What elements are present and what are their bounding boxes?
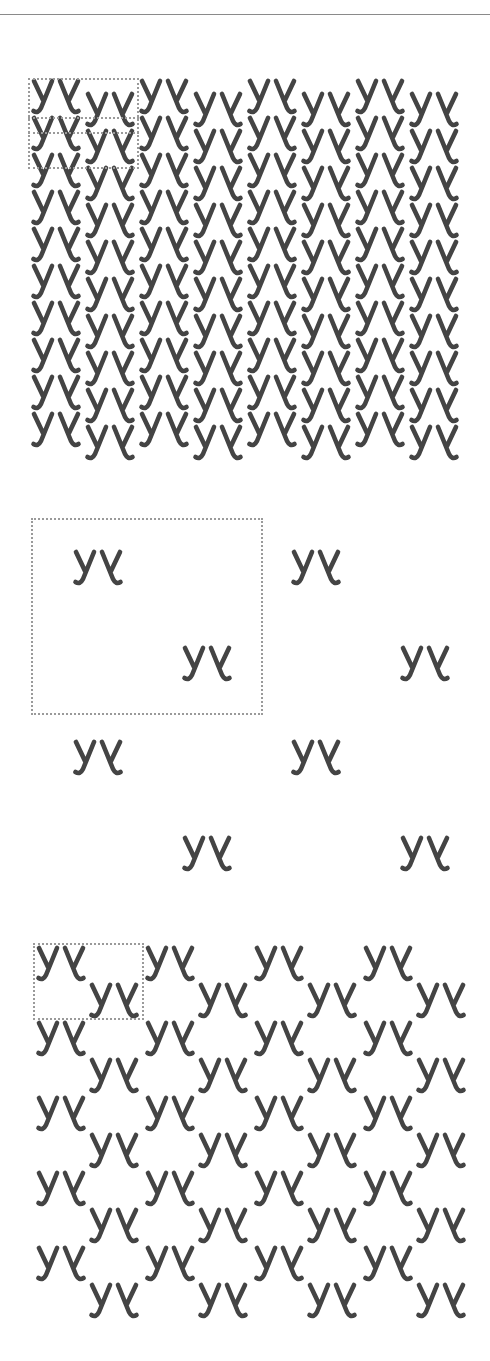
yy-motif-icon [300, 387, 352, 425]
yy-motif-icon [408, 128, 460, 166]
yy-motif-icon [246, 78, 298, 116]
yy-motif-icon [192, 128, 244, 166]
yy-motif-icon [362, 945, 414, 983]
yy-motif-icon [30, 300, 82, 338]
yy-motif-icon [362, 1170, 414, 1208]
yy-motif-icon [253, 945, 305, 983]
yy-motif-icon [138, 411, 190, 449]
yy-motif-icon [306, 1207, 358, 1245]
yy-motif-icon [144, 945, 196, 983]
yy-motif-icon [30, 189, 82, 227]
yy-motif-icon [138, 263, 190, 301]
yy-motif-icon [84, 165, 136, 203]
yy-motif-icon [88, 1132, 140, 1170]
yy-motif-icon [300, 350, 352, 388]
yy-motif-icon [246, 411, 298, 449]
yy-motif-icon [84, 128, 136, 166]
yy-motif-icon [197, 1207, 249, 1245]
yy-motif-icon [408, 350, 460, 388]
yy-motif-icon [192, 350, 244, 388]
yy-motif-icon [84, 387, 136, 425]
yy-motif-icon [144, 1020, 196, 1058]
yy-motif-icon [192, 239, 244, 277]
yy-motif-icon [30, 337, 82, 375]
yy-motif-icon [192, 424, 244, 462]
yy-motif-icon [408, 202, 460, 240]
yy-motif-icon [84, 91, 136, 129]
yy-motif-icon [30, 374, 82, 412]
yy-motif-icon [197, 982, 249, 1020]
yy-motif-icon [300, 165, 352, 203]
yy-motif-icon [415, 1207, 467, 1245]
yy-motif-icon [144, 1095, 196, 1133]
yy-motif-icon [35, 1020, 87, 1058]
yy-motif-icon [138, 78, 190, 116]
yy-motif-icon [84, 350, 136, 388]
yy-motif-icon [84, 202, 136, 240]
yy-motif-icon [300, 424, 352, 462]
yy-motif-icon [192, 313, 244, 351]
yy-motif-icon [300, 239, 352, 277]
yy-motif-icon [306, 1132, 358, 1170]
yy-motif-icon [246, 263, 298, 301]
yy-motif-icon [144, 1170, 196, 1208]
yy-motif-icon [253, 1245, 305, 1283]
yy-motif-icon [408, 91, 460, 129]
yy-motif-icon [138, 152, 190, 190]
yy-motif-icon [246, 300, 298, 338]
yy-motif-icon [181, 645, 233, 683]
yy-motif-icon [192, 387, 244, 425]
yy-motif-icon [35, 1095, 87, 1133]
yy-motif-icon [300, 128, 352, 166]
yy-motif-icon [408, 276, 460, 314]
yy-motif-icon [144, 1245, 196, 1283]
yy-motif-icon [354, 263, 406, 301]
yy-motif-icon [84, 276, 136, 314]
yy-motif-icon [30, 152, 82, 190]
yy-motif-icon [362, 1245, 414, 1283]
yy-motif-icon [399, 835, 451, 873]
yy-motif-icon [246, 337, 298, 375]
yy-motif-icon [30, 78, 82, 116]
yy-motif-icon [300, 313, 352, 351]
yy-motif-icon [138, 300, 190, 338]
yy-motif-icon [408, 239, 460, 277]
yy-motif-icon [35, 1245, 87, 1283]
yy-motif-icon [84, 239, 136, 277]
yy-motif-icon [408, 387, 460, 425]
yy-motif-icon [84, 424, 136, 462]
yy-motif-icon [246, 152, 298, 190]
yy-motif-icon [253, 1020, 305, 1058]
yy-motif-icon [415, 1057, 467, 1095]
yy-motif-icon [192, 91, 244, 129]
yy-motif-icon [362, 1095, 414, 1133]
yy-motif-icon [246, 189, 298, 227]
yy-motif-icon [408, 424, 460, 462]
yy-motif-icon [72, 549, 124, 587]
yy-motif-icon [253, 1095, 305, 1133]
yy-motif-icon [138, 374, 190, 412]
yy-motif-icon [246, 115, 298, 153]
yy-motif-icon [30, 226, 82, 264]
yy-motif-icon [197, 1057, 249, 1095]
yy-motif-icon [354, 374, 406, 412]
yy-motif-icon [415, 1132, 467, 1170]
yy-motif-icon [306, 982, 358, 1020]
yy-motif-icon [354, 411, 406, 449]
yy-motif-icon [354, 115, 406, 153]
yy-motif-icon [88, 1207, 140, 1245]
yy-motif-icon [415, 1282, 467, 1320]
yy-motif-icon [354, 189, 406, 227]
yy-motif-icon [192, 276, 244, 314]
yy-motif-icon [88, 1057, 140, 1095]
yy-motif-icon [415, 982, 467, 1020]
yy-motif-icon [35, 945, 87, 983]
yy-motif-icon [354, 226, 406, 264]
yy-motif-icon [290, 549, 342, 587]
yy-motif-icon [138, 337, 190, 375]
repeat-tile-outline-sparse [31, 518, 263, 715]
top-divider-line [0, 14, 490, 15]
yy-motif-icon [306, 1057, 358, 1095]
yy-motif-icon [138, 189, 190, 227]
yy-motif-icon [30, 411, 82, 449]
